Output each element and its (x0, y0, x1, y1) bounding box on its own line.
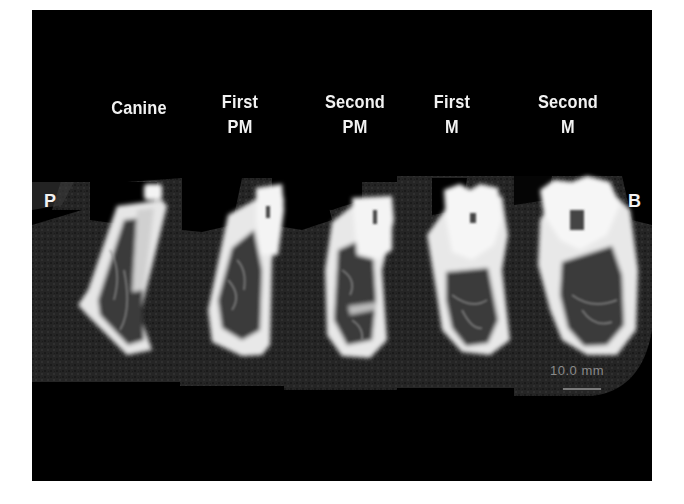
orientation-label-palatal: P (44, 191, 56, 212)
orientation-label-buccal: B (628, 191, 641, 212)
ct-slices-graphic (32, 10, 652, 481)
scale-bar (563, 388, 601, 390)
ct-image-panel: Canine First PM Second PM First M Second… (32, 10, 652, 481)
scale-bar-label: 10.0 mm (550, 363, 604, 378)
